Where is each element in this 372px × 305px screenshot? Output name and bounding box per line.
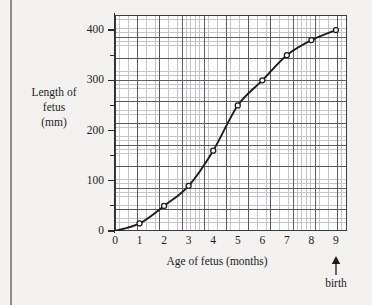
plot-area	[115, 15, 347, 231]
y-axis-tick-label: 100	[72, 175, 104, 187]
curve-path	[115, 30, 336, 231]
y-axis-tick-label: 0	[72, 225, 104, 237]
data-point-marker	[260, 78, 265, 83]
data-point-markers	[137, 28, 338, 226]
x-axis-tick-label: 6	[254, 234, 270, 246]
y-axis-tick	[108, 29, 115, 30]
x-axis-tick-label: 0	[107, 234, 123, 246]
x-axis-tick-labels: 0123456789	[115, 234, 347, 250]
x-axis-tick-label: 4	[205, 234, 221, 246]
data-point-marker	[162, 203, 167, 208]
x-axis-tick-label: 5	[230, 234, 246, 246]
x-axis-tick-label: 9	[328, 234, 344, 246]
y-axis-tick	[108, 230, 115, 231]
y-axis-tick	[108, 130, 115, 131]
x-axis-tick-label: 3	[181, 234, 197, 246]
data-point-marker	[137, 221, 142, 226]
data-point-marker	[235, 103, 240, 108]
growth-curve	[115, 15, 347, 231]
data-point-marker	[333, 28, 338, 33]
data-point-marker	[186, 183, 191, 188]
fetal-growth-chart-figure: Length of fetus (mm) 0100200300400 01234…	[0, 0, 372, 305]
y-axis-tick-label: 300	[72, 74, 104, 86]
data-point-marker	[309, 38, 314, 43]
birth-annotation: birth	[316, 256, 356, 289]
x-axis-tick-label: 8	[303, 234, 319, 246]
y-axis-title-line-2: fetus	[8, 100, 100, 115]
x-axis-tick-label: 1	[132, 234, 148, 246]
y-axis-tick-label: 400	[72, 24, 104, 36]
data-point-marker	[284, 53, 289, 58]
up-arrow-icon	[329, 256, 343, 276]
y-axis-tick-label: 200	[72, 125, 104, 137]
y-axis-title-line-1: Length of	[8, 85, 100, 100]
y-axis-tick	[108, 180, 115, 181]
x-axis-tick-label: 2	[156, 234, 172, 246]
y-axis-tick	[108, 80, 115, 81]
x-axis-title: Age of fetus (months)	[112, 255, 322, 267]
birth-label: birth	[316, 277, 356, 289]
x-axis-tick-label: 7	[279, 234, 295, 246]
data-point-marker	[211, 148, 216, 153]
